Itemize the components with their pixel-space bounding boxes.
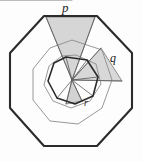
angle-label-q: q — [110, 52, 116, 64]
angle-label-r: r — [84, 98, 88, 108]
polygon-diagram-canvas — [0, 0, 143, 162]
geometry-figure: p q r — [0, 0, 143, 162]
angle-label-p: p — [62, 1, 69, 14]
